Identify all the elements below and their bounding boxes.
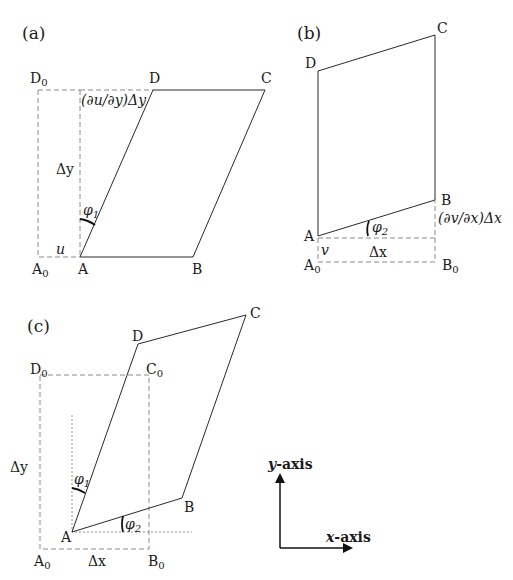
panel-c-point-D0: D0 bbox=[30, 361, 48, 379]
panel-c-delta-x-label: Δx bbox=[88, 553, 106, 569]
panel-c-delta-y-label: Δy bbox=[10, 459, 28, 475]
panel-b: (b) C D B (∂v/∂x)Δx φ2 A v Δx A0 B0 bbox=[297, 20, 502, 275]
panel-c-point-C0: C0 bbox=[146, 361, 163, 379]
panel-a-label: (a) bbox=[22, 23, 45, 43]
panel-b-delta-x-label: Δx bbox=[369, 244, 387, 260]
panel-b-point-B0: B0 bbox=[442, 257, 459, 275]
shear-deformation-figure: (a) D0 D C (∂u/∂y)Δy Δy φ1 u A0 A B (b) … bbox=[0, 0, 513, 580]
panel-a-point-A0: A0 bbox=[31, 261, 49, 279]
panel-c-point-C: C bbox=[250, 305, 261, 321]
panel-b-deformed-element bbox=[318, 35, 435, 236]
panel-c-phi1-label: φ1 bbox=[74, 471, 90, 489]
panel-c-phi2-arc bbox=[122, 516, 123, 532]
panel-a: (a) D0 D C (∂u/∂y)Δy Δy φ1 u A0 A B bbox=[22, 23, 272, 279]
panel-c-point-B: B bbox=[184, 499, 194, 515]
panel-b-point-A0: A0 bbox=[303, 257, 321, 275]
panel-c-label: (c) bbox=[27, 316, 50, 336]
panel-c-phi2-label: φ2 bbox=[125, 516, 141, 534]
panel-c-reference-lines bbox=[72, 415, 192, 532]
panel-c-point-A0: A0 bbox=[33, 553, 51, 571]
panel-c-point-A: A bbox=[60, 529, 72, 545]
panel-a-delta-y-label: Δy bbox=[56, 161, 74, 177]
panel-c-deformed-element bbox=[72, 315, 246, 532]
panel-b-phi2-label: φ2 bbox=[372, 219, 388, 237]
panel-b-point-B: B bbox=[441, 192, 451, 208]
panel-b-point-A: A bbox=[303, 228, 315, 244]
panel-a-point-D: D bbox=[149, 70, 160, 86]
panel-b-point-D: D bbox=[305, 55, 316, 71]
panel-a-deformed-element bbox=[80, 90, 265, 257]
y-axis-label: y-axis bbox=[267, 456, 313, 472]
panel-c-point-B0: B0 bbox=[148, 553, 165, 571]
panel-a-u-label: u bbox=[56, 241, 65, 257]
panel-a-point-C: C bbox=[261, 70, 272, 86]
panel-a-shear-offset-label: (∂u/∂y)Δy bbox=[81, 92, 147, 108]
panel-b-shear-offset-label: (∂v/∂x)Δx bbox=[438, 210, 502, 226]
axes-legend: y-axis x-axis bbox=[267, 456, 371, 548]
panel-a-point-B: B bbox=[192, 261, 202, 277]
panel-b-v-label: v bbox=[321, 242, 329, 258]
panel-a-phi1-label: φ1 bbox=[83, 202, 99, 220]
panel-c: (c) D C D0 C0 Δy φ1 B φ2 A A0 Δx B0 bbox=[10, 305, 261, 571]
panel-b-phi2-arc bbox=[367, 221, 369, 236]
x-axis-label: x-axis bbox=[325, 529, 371, 545]
panel-a-point-A: A bbox=[77, 261, 89, 277]
panel-b-label: (b) bbox=[297, 23, 321, 43]
panel-a-point-D0: D0 bbox=[30, 70, 48, 88]
panel-c-point-D: D bbox=[132, 328, 143, 344]
panel-b-point-C: C bbox=[437, 20, 448, 36]
